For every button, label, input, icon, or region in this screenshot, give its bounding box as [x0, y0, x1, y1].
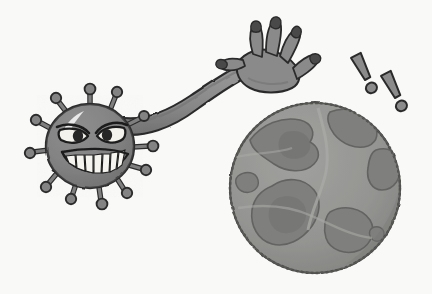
illustration-svg	[0, 0, 432, 294]
claw-tip-1	[216, 60, 227, 69]
illustration-canvas: Cartoon virus reaching toward planet Ear…	[0, 0, 432, 294]
virus-pupil-right	[102, 129, 112, 141]
virus-body-grain	[46, 104, 134, 188]
claw-tip-5	[310, 54, 321, 64]
virus-pupil-left	[73, 130, 83, 142]
claw-tip-3	[270, 17, 281, 29]
claw-tip-4	[291, 26, 301, 37]
claw-tip-2	[251, 21, 262, 32]
